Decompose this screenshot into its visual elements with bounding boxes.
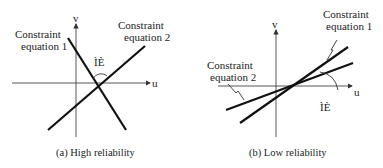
line2-label-line2: equation 2: [124, 31, 170, 43]
line1-label-line2: equation 1: [326, 20, 372, 32]
line1-label-line2: equation 1: [21, 40, 67, 52]
angle-label: ÌÈ: [94, 56, 105, 68]
caption-a: (a) High reliability: [56, 147, 135, 159]
angle-arc: [93, 74, 107, 79]
line1-label-line1: Constraint: [323, 8, 369, 20]
line1-label-line1: Constraint: [15, 28, 61, 40]
constraint-line-1: [68, 38, 126, 130]
line2-label-line1: Constraint: [118, 19, 164, 31]
u-axis-label: u: [354, 86, 360, 98]
u-axis-label: u: [152, 77, 158, 89]
line2-label-line1: Constraint: [207, 59, 253, 71]
v-axis-label: v: [73, 12, 79, 24]
constraint-diagrams: u v ÌÈ Constraint equation 1 Constraint …: [0, 0, 383, 168]
angle-label: ÌÈ: [320, 101, 331, 113]
caption-b: (b) Low reliability: [249, 147, 327, 159]
figure-b: u v ÌÈ Constraint equation 1 Constraint …: [207, 8, 372, 159]
line2-label-line2: equation 2: [210, 71, 256, 83]
figure-a: u v ÌÈ Constraint equation 1 Constraint …: [12, 12, 170, 159]
v-axis-label: v: [272, 18, 278, 30]
